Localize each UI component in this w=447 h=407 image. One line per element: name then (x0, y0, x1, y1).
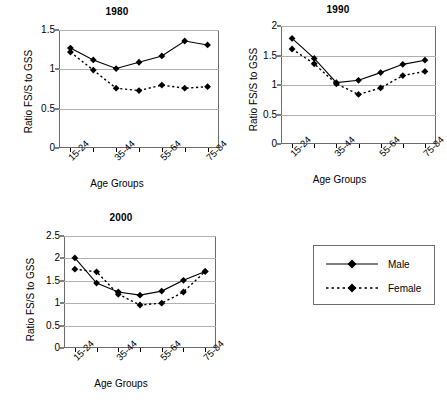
data-point-female (137, 302, 144, 309)
x-tick-mark (97, 348, 98, 352)
data-point-female (355, 91, 362, 98)
y-tick-label: 0.5 (41, 104, 55, 114)
data-point-female (181, 85, 188, 92)
x-axis-label-1980: Age Groups (32, 178, 202, 189)
series-line-female (75, 269, 205, 305)
chart-title-2000: 2000 (6, 212, 236, 223)
x-tick-mark (93, 148, 94, 152)
plot-area-1980: 00.511.5 15-2435-4455-6475-84 (59, 30, 219, 148)
y-tick-label: 0.5 (263, 110, 277, 120)
data-point-male (180, 277, 187, 284)
series-layer-1980 (59, 30, 219, 148)
data-point-male (399, 61, 406, 68)
data-point-male (181, 38, 188, 45)
y-tick-label: 1.5 (41, 25, 55, 35)
x-tick-mark (185, 148, 186, 152)
x-tick-mark (139, 148, 140, 152)
y-axis-label-text: Ratio FS/S to GSS (25, 252, 36, 348)
legend-label-female: Female (388, 283, 421, 294)
legend: Male Female (313, 245, 435, 305)
data-point-male (158, 288, 165, 295)
data-point-male (355, 77, 362, 84)
x-tick-mark (359, 144, 360, 148)
chart-panel-1980: 1980 Ratio FS/S to GSS 00.511.5 15-2435-… (6, 6, 228, 196)
x-axis-label-2000: Age Groups (36, 378, 206, 389)
x-tick-mark (403, 144, 404, 148)
x-tick-mark (314, 144, 315, 148)
data-point-male (158, 53, 165, 60)
x-axis-label-1990: Age Groups (257, 174, 422, 185)
chart-title-1980: 1980 (6, 6, 228, 17)
y-tick-label: 1.5 (46, 276, 60, 286)
y-tick-label: 1.5 (263, 51, 277, 61)
legend-label-male: Male (388, 259, 410, 270)
legend-item-female: Female (324, 282, 421, 294)
data-point-female (399, 72, 406, 79)
x-tick-mark (140, 348, 141, 352)
data-point-male (377, 69, 384, 76)
data-point-male (204, 42, 211, 49)
data-point-female (289, 46, 296, 53)
x-tick-mark (183, 348, 184, 352)
data-point-male (136, 59, 143, 66)
legend-key-female-icon (324, 282, 380, 294)
data-point-female (136, 87, 143, 94)
data-point-female (422, 68, 429, 75)
data-point-male (137, 292, 144, 299)
chart-panel-2000: 2000 Ratio FS/S to GSS 00.511.522.5 15-2… (6, 212, 236, 402)
data-point-female (158, 82, 165, 89)
y-tick-label: 2.5 (46, 231, 60, 241)
data-point-male (90, 56, 97, 63)
data-point-male (113, 65, 120, 72)
y-axis-label-text: Ratio FS/S to GSS (23, 44, 34, 140)
y-axis-label-text: Ratio FS/S to GSS (248, 42, 259, 138)
data-point-female (71, 266, 78, 273)
series-layer-1990 (281, 26, 436, 144)
series-layer-2000 (64, 236, 216, 348)
chart-panel-1990: 1990 Ratio FS/S to GSS 00.511.52 15-2435… (233, 4, 443, 194)
data-point-female (158, 300, 165, 307)
data-point-male (422, 57, 429, 64)
chart-title-1990: 1990 (233, 4, 443, 15)
legend-item-male: Male (324, 258, 410, 270)
data-point-female (377, 85, 384, 92)
plot-area-1990: 00.511.52 15-2435-4455-6475-84 (281, 26, 436, 144)
plot-area-2000: 00.511.522.5 15-2435-4455-6475-84 (64, 236, 216, 348)
y-tick-label: 0.5 (46, 321, 60, 331)
series-line-female (70, 52, 207, 91)
legend-key-male-icon (324, 258, 380, 270)
